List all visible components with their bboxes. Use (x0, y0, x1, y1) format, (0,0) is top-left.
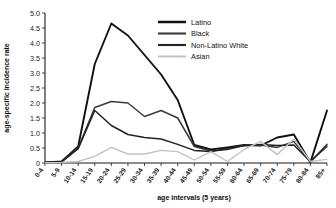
incidence-rate-line-chart: 00.51.01.52.02.53.03.54.04.55.00-45-910-… (0, 0, 336, 208)
x-axis-tick-label: 35-39 (145, 166, 161, 184)
x-axis-tick-label: 30-34 (128, 166, 144, 184)
x-axis-tick-label: 15-19 (79, 166, 95, 184)
x-axis-tick-label: 75-79 (278, 166, 294, 184)
legend-item-asian: Asian (158, 52, 210, 61)
series-line-asian (45, 139, 327, 163)
y-axis-tick-label: 2.0 (30, 99, 40, 108)
chart-container: 00.51.01.52.02.53.03.54.04.55.00-45-910-… (0, 0, 336, 208)
x-axis-tick-label: 5-9 (50, 166, 61, 178)
legend-item-latino: Latino (158, 18, 211, 27)
x-axis-tick-label: 45-49 (178, 166, 194, 184)
x-axis-tick-label: 10-14 (62, 166, 78, 184)
x-axis-tick-label: 50-54 (195, 166, 211, 184)
x-axis-tick-label: 25-29 (112, 166, 128, 184)
y-axis-tick-label: 2.5 (30, 84, 40, 93)
y-axis-tick-label: 5.0 (30, 9, 40, 18)
y-axis-tick-label: 3.5 (30, 54, 40, 63)
x-axis-tick-label: 40-44 (162, 166, 178, 184)
y-axis-tick-label: 1.0 (30, 129, 40, 138)
legend-label: Latino (191, 18, 211, 27)
x-axis-tick-label: 70-74 (261, 166, 277, 184)
x-axis-tick-label: 0-4 (33, 166, 44, 178)
x-axis-tick-label: 55-59 (211, 166, 227, 184)
x-axis-title: age intervals (5 years) (157, 194, 231, 202)
legend-item-black: Black (158, 29, 209, 38)
x-axis-tick-label: 85+ (314, 166, 326, 179)
x-axis-tick-label: 65-69 (245, 166, 261, 184)
y-axis-tick-label: 4.5 (30, 24, 40, 33)
legend-item-non-latino-white: Non-Latino White (158, 41, 248, 50)
y-axis-tick-label: 1.5 (30, 114, 40, 123)
y-axis-tick-label: 3.0 (30, 69, 40, 78)
y-axis-title: age-specific incidence rate (3, 43, 11, 133)
x-axis-tick-label: 60-64 (228, 166, 244, 184)
legend-label: Black (191, 29, 209, 38)
legend-label: Asian (191, 52, 210, 61)
series-line-black (45, 102, 327, 163)
x-axis-tick-label: 20-24 (95, 166, 111, 184)
legend-label: Non-Latino White (191, 41, 248, 50)
chart-legend: LatinoBlackNon-Latino WhiteAsian (158, 18, 248, 62)
y-axis-tick-label: 4.0 (30, 39, 40, 48)
y-axis-tick-label: 0.5 (30, 144, 40, 153)
x-axis-tick-label: 80-84 (294, 166, 310, 184)
